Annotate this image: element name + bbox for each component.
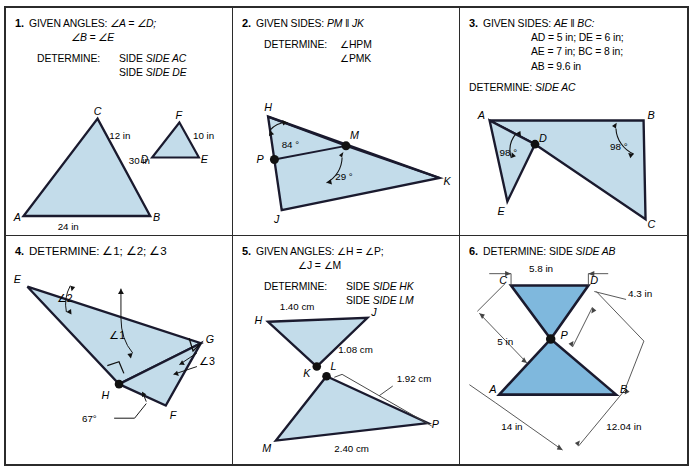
angle-label-3: ∠3 (199, 355, 215, 367)
arrowhead (588, 271, 594, 276)
dimension-4-3in: 4.3 in (628, 288, 652, 299)
determine-line-1: SIDE SIDE AB (549, 246, 616, 257)
arrowhead (179, 360, 184, 365)
problem-panel-2[interactable]: 2.GIVEN SIDES: PM ‖ JK DETERMINE: ∠HPM ∠… (233, 8, 460, 236)
arrowhead (142, 392, 146, 397)
arrowhead (516, 131, 521, 137)
vertex-label-m: M (350, 129, 359, 141)
point-p (270, 155, 279, 164)
ext-line-corner (596, 292, 644, 342)
triangle-def (152, 122, 199, 157)
angle-label-1: ∠1 (109, 329, 125, 341)
arrowhead (612, 123, 617, 129)
problem-number: 3. (469, 17, 478, 29)
problem-panel-3[interactable]: 3.GIVEN SIDES: AE ‖ BC: AD = 5 in; DE = … (460, 8, 687, 236)
dimension-5in: 5 in (497, 336, 513, 347)
dim-line-14in (495, 403, 562, 451)
dimension-14in: 14 in (501, 421, 522, 432)
vertex-label-p: P (561, 329, 569, 341)
problem-panel-6[interactable]: 6.DETERMINE: SIDE SIDE AB (460, 236, 687, 464)
dimension-10in: 10 in (193, 130, 214, 141)
given-line-1: ∠H = ∠P; (337, 246, 383, 257)
arrowhead (505, 271, 511, 276)
dimension-24in: 24 in (58, 221, 79, 232)
vertex-label-m: M (262, 442, 271, 454)
problem-panel-4[interactable]: 4.DETERMINE: ∠1; ∠2; ∠3 E G H F (6, 236, 233, 464)
dimension-30in: 30 in (129, 155, 150, 166)
determine-row: DETERMINE: SIDE AC (469, 82, 575, 93)
angle-leader-3a (179, 353, 197, 365)
determine-line-1: SIDE SIDE HK (346, 280, 414, 294)
vertex-label-g: G (206, 333, 214, 345)
angle-leader-67 (142, 392, 146, 402)
triangle-abc (24, 119, 151, 216)
leader-line-67 (114, 404, 146, 419)
triangle-ghf (119, 343, 201, 405)
vertex-label-l: L (330, 360, 336, 372)
triangle-lpm (276, 376, 428, 440)
point-p (546, 334, 556, 344)
given-line-1: AE ‖ BC: (554, 18, 594, 29)
angle-arc-98-right (616, 128, 634, 154)
arrowhead (118, 289, 124, 294)
problem-6-statement: 6.DETERMINE: SIDE SIDE AB (469, 244, 683, 259)
given-label: GIVEN ANGLES: (29, 18, 107, 29)
determine-line-1: SIDE AC (535, 82, 576, 93)
dimension-2-40cm: 2.40 cm (334, 443, 369, 454)
ext-line-5in (477, 284, 505, 312)
arrowhead (269, 130, 274, 136)
vertex-label-c: C (499, 274, 507, 286)
vertex-label-f: F (176, 109, 184, 121)
vertex-label-k: K (303, 367, 311, 379)
determine-line-1: ∠HPM (340, 38, 372, 52)
triangle-egh (27, 287, 200, 384)
vertex-label-d: D (140, 153, 148, 165)
arrowhead (557, 444, 563, 450)
arrowhead (575, 440, 580, 446)
dim-line-1204in (578, 389, 626, 446)
vertex-label-a: A (477, 109, 485, 121)
dimension-12in: 12 in (109, 130, 130, 141)
problem-panel-1[interactable]: 1.GIVEN ANGLES: ∠A = ∠D; ∠B = ∠E DETERMI… (6, 8, 233, 236)
segment-pm (274, 146, 346, 160)
problem-6-figure: C D P A B 5.8 in 4.3 in 5 in 14 in 12.04… (460, 236, 687, 464)
triangle-ade (490, 121, 535, 202)
given-line-2: ∠B = ∠E (15, 31, 228, 45)
problem-3-statement: 3.GIVEN SIDES: AE ‖ BC: AD = 5 in; DE = … (469, 16, 683, 95)
determine-line-2: SIDE SIDE DE (119, 66, 187, 80)
vertex-label-d: D (590, 274, 598, 286)
problem-number: 5. (242, 245, 251, 257)
problem-1-statement: 1.GIVEN ANGLES: ∠A = ∠D; ∠B = ∠E DETERMI… (15, 16, 228, 67)
given-label: GIVEN ANGLES: (256, 246, 334, 257)
problem-4-figure: E G H F ∠2 ∠1 ∠3 67° (6, 236, 232, 464)
arrowhead (282, 120, 287, 125)
dim-line-43 (573, 307, 593, 347)
point-m (342, 141, 351, 150)
vertex-label-h: H (264, 101, 272, 113)
angle-label-29: 29 ° (335, 171, 353, 182)
vertex-label-p: P (256, 153, 264, 165)
vertex-label-h: H (254, 314, 262, 326)
arrowhead (339, 152, 343, 158)
angle-arc-29 (327, 158, 343, 183)
arrowhead (327, 179, 332, 184)
problem-2-statement: 2.GIVEN SIDES: PM ‖ JK DETERMINE: ∠HPM ∠… (242, 16, 455, 52)
angle-label-84: 84 ° (282, 139, 300, 150)
vertex-label-a: A (13, 211, 21, 223)
given-line-4: AB = 9.6 in (469, 60, 683, 74)
worksheet-grid: 1.GIVEN ANGLES: ∠A = ∠D; ∠B = ∠E DETERMI… (4, 6, 689, 466)
vertex-label-b: B (153, 211, 160, 223)
segment-hmk (268, 117, 439, 178)
leader-tick-192 (379, 386, 393, 396)
vertex-label-c: C (94, 105, 102, 117)
vertex-label-e: E (498, 205, 506, 217)
problem-panel-5[interactable]: 5.GIVEN ANGLES: ∠H = ∠P; ∠J = ∠M DETERMI… (233, 236, 460, 464)
determine-line-2: ∠PMK (340, 52, 371, 66)
angle-leader-2 (66, 286, 71, 312)
vertex-label-a: A (488, 383, 496, 395)
determine-label: DETERMINE: (29, 244, 100, 257)
given-line-2: AD = 5 in; DE = 6 in; (469, 31, 683, 45)
ext-line-14in (469, 385, 495, 403)
vertex-label-h: H (101, 389, 109, 401)
point-l (322, 372, 331, 381)
